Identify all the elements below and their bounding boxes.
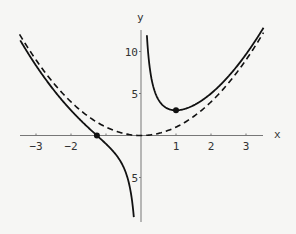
x-tick-label: 1 [173, 140, 180, 153]
plot-canvas: −3−21235510 x y [0, 0, 296, 234]
x-axis-label: x [274, 128, 281, 141]
curves [20, 28, 264, 217]
y-tick-label: 5 [131, 172, 138, 185]
marked-point [173, 107, 179, 113]
y-axis-label: y [137, 11, 144, 24]
y-tick-label: 10 [125, 46, 138, 59]
x-tick-label: −2 [64, 140, 77, 153]
curve-f-left-branch [20, 40, 134, 217]
y-tick-label: 5 [131, 88, 138, 101]
x-tick-label: −3 [29, 140, 42, 153]
x-tick-label: 2 [208, 140, 215, 153]
function-plot: −3−21235510 x y [0, 0, 296, 234]
curve-g-dashed [20, 33, 264, 136]
axes: −3−21235510 [20, 30, 263, 222]
marked-point [94, 133, 100, 139]
x-tick-label: 3 [243, 140, 250, 153]
curve-f-right-branch [147, 28, 264, 111]
marked-points [94, 107, 179, 138]
